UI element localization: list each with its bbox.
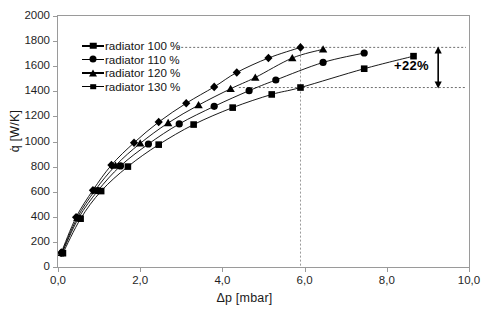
x-tick-label: 0,0 [38,275,78,287]
x-tick-mark [387,268,388,272]
legend-item-3: radiator 130 % [82,80,180,94]
data-point-diamond [296,43,304,52]
x-tick-mark [140,268,141,272]
data-point-square [190,121,197,128]
y-tick-label: 1600 [2,60,50,72]
data-point-square [361,65,368,72]
legend-key-marker [90,84,96,90]
data-point-circle [176,120,183,127]
data-point-triangle [226,85,234,92]
data-point-triangle [164,119,172,126]
x-tick-label: 2,0 [120,275,160,287]
legend-key-triangle-icon [82,67,104,78]
legend-key-marker [89,69,97,76]
data-point-diamond [264,54,272,63]
legend: radiator 100 %radiator 110 %radiator 120… [82,39,180,93]
data-point-diamond [182,99,190,108]
legend-item-0: radiator 100 % [82,39,180,53]
y-tick-label: 0 [2,261,50,273]
data-point-diamond [210,83,218,92]
legend-label: radiator 120 % [105,66,180,80]
legend-key-circle-icon [82,54,104,65]
data-point-square [155,141,162,148]
data-point-diamond [233,68,241,77]
y-tick-label: 600 [2,186,50,198]
y-tick-label: 200 [2,236,50,248]
x-tick-mark [58,268,59,272]
legend-label: radiator 130 % [105,80,180,94]
data-point-square [125,163,132,170]
y-tick-label: 2000 [2,10,50,22]
x-tick-label: 6,0 [285,275,325,287]
y-tick-label: 400 [2,211,50,223]
data-point-circle [246,87,253,94]
data-point-circle [145,140,152,147]
data-point-triangle [319,45,327,52]
x-tick-label: 4,0 [202,275,242,287]
legend-key-marker [90,56,97,63]
x-tick-label: 8,0 [367,275,407,287]
data-point-circle [272,76,279,83]
data-point-square [229,104,236,111]
data-point-circle [211,103,218,110]
x-axis-title: Δp [mbar] [0,291,489,305]
legend-label: radiator 100 % [105,39,180,53]
legend-key-marker [90,43,97,50]
x-tick-mark [222,268,223,272]
legend-item-1: radiator 110 % [82,53,180,67]
legend-item-2: radiator 120 % [82,66,180,80]
annotation-arrow [435,46,442,88]
annotation-percent-gain: +22% [394,58,429,73]
y-axis-title: q̇ [W/K] [8,86,22,176]
data-point-square [297,84,304,91]
x-tick-label: 10,0 [449,275,489,287]
x-tick-mark [305,268,306,272]
data-point-circle [319,59,326,66]
data-point-triangle [251,73,259,80]
y-tick-label: 1800 [2,35,50,47]
data-point-circle [361,49,368,56]
legend-key-diamond-icon [82,81,104,92]
x-tick-mark [469,268,470,272]
data-point-triangle [288,54,296,61]
data-point-square [268,91,275,98]
data-point-diamond [155,118,163,127]
legend-label: radiator 110 % [105,53,180,67]
data-point-triangle [194,101,202,108]
chart-container: 0200400600800100012001400160018002000 0,… [0,0,489,312]
legend-key-square-icon [82,40,104,51]
